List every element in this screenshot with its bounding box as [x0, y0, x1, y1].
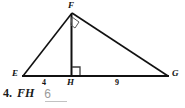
vertex-label-g: G: [172, 69, 179, 78]
vertex-label-f: F: [68, 1, 74, 10]
answer-value: 6: [44, 87, 51, 101]
answer-underline: [45, 101, 67, 102]
problem-number: 4.: [3, 86, 12, 100]
problem-segment-label: FH: [17, 86, 34, 100]
segment-fg: [72, 13, 168, 76]
right-angle-mark-h: [72, 67, 80, 75]
worksheet-page: F E H G 4 9 4. FH 6: [0, 0, 185, 108]
vertex-label-e: E: [12, 69, 18, 78]
geometry-figure: [0, 0, 185, 88]
segment-ef: [23, 13, 72, 76]
answer-field[interactable]: 6: [44, 86, 51, 101]
problem-answer-row: 4. FH 6: [0, 86, 185, 108]
